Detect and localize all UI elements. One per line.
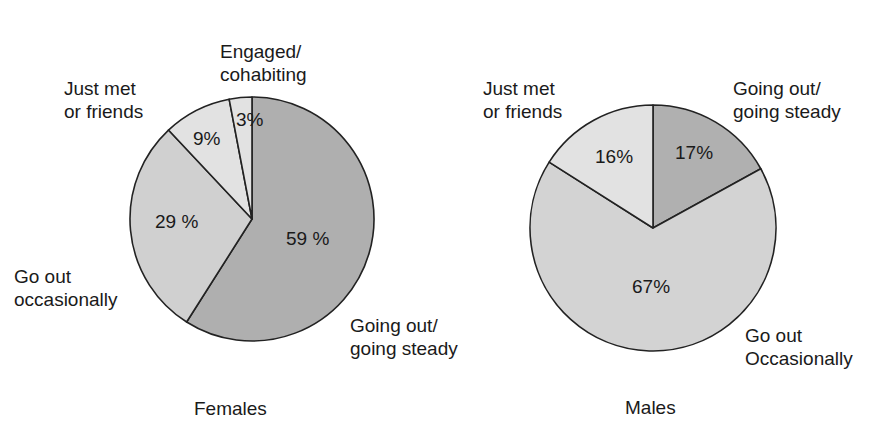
males-pie: [530, 105, 776, 351]
females-label-go-out: Go out occasionally: [14, 265, 118, 311]
label-line: Engaged/: [220, 40, 307, 63]
males-label-going-steady: Going out/ going steady: [733, 77, 841, 123]
females-pct-going-steady: 59 %: [286, 228, 329, 250]
label-line: Go out: [14, 265, 118, 288]
females-label-going-steady: Going out/ going steady: [350, 314, 458, 360]
females-chart-title: Females: [194, 398, 267, 420]
females-pct-engaged: 3%: [236, 109, 263, 131]
label-line: Going out/: [350, 314, 458, 337]
label-line: or friends: [483, 100, 562, 123]
label-line: Just met: [483, 77, 562, 100]
label-line: going steady: [733, 100, 841, 123]
males-pct-just-met: 16%: [595, 146, 633, 168]
females-pct-go-out: 29 %: [155, 211, 198, 233]
females-label-engaged: Engaged/ cohabiting: [220, 40, 307, 86]
label-line: cohabiting: [220, 63, 307, 86]
label-line: Just met: [64, 77, 143, 100]
label-line: Going out/: [733, 77, 841, 100]
males-chart-title: Males: [625, 397, 676, 419]
males-label-go-out: Go out Occasionally: [745, 324, 853, 370]
females-pct-just-met: 9%: [193, 128, 220, 150]
label-line: going steady: [350, 337, 458, 360]
label-line: or friends: [64, 100, 143, 123]
label-line: occasionally: [14, 288, 118, 311]
label-line: Occasionally: [745, 347, 853, 370]
males-pct-going-steady: 17%: [675, 142, 713, 164]
males-pct-go-out: 67%: [632, 276, 670, 298]
males-label-just-met: Just met or friends: [483, 77, 562, 123]
label-line: Go out: [745, 324, 853, 347]
females-label-just-met: Just met or friends: [64, 77, 143, 123]
